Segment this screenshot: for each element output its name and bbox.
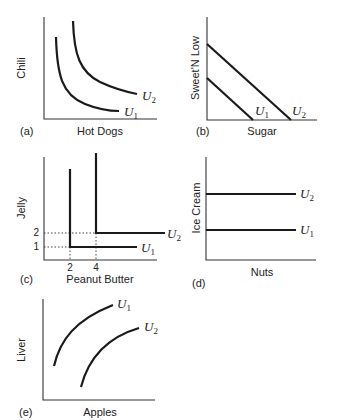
curve-a-u2 [73, 21, 137, 94]
panel-b: U1 U2 Sweet'N Low Sugar (b) [189, 17, 317, 137]
axes-d [206, 157, 316, 260]
label-b-u1: U1 [255, 103, 269, 120]
xtick-c-4: 4 [93, 262, 99, 273]
curve-c-u1 [70, 169, 137, 247]
ylabel-e: Liver [15, 338, 27, 362]
panel-d: U1 U2 Ice Cream Nuts (d) [190, 157, 316, 289]
xlabel-a: Hot Dogs [77, 125, 123, 137]
label-e-u1: U1 [117, 296, 131, 313]
label-d-u1: U1 [300, 222, 314, 239]
panel-c: U1 U2 1 2 2 4 Jelly Peanut Butter (c) [15, 153, 181, 285]
curve-b-u1 [207, 78, 253, 120]
curve-e-u2 [81, 328, 139, 387]
tag-e: (e) [19, 406, 32, 418]
ylabel-a: Chili [15, 57, 27, 78]
ytick-c-2: 2 [33, 227, 39, 238]
tag-d: (d) [192, 277, 205, 289]
label-d-u2: U2 [300, 186, 314, 203]
ylabel-c: Jelly [15, 197, 27, 220]
tag-c: (c) [20, 273, 33, 285]
label-c-u1: U1 [141, 240, 155, 257]
label-a-u2: U2 [142, 88, 156, 105]
curve-b-u2 [207, 44, 291, 120]
xlabel-c: Peanut Butter [66, 273, 134, 285]
xtick-c-2: 2 [67, 262, 73, 273]
panel-a: U1 U2 Chili Hot Dogs (a) [15, 17, 157, 137]
xlabel-d: Nuts [251, 266, 274, 278]
tag-b: (b) [196, 125, 209, 137]
tag-a: (a) [20, 125, 33, 137]
panel-e: U1 U2 Liver Apples (e) [15, 296, 158, 418]
ytick-c-1: 1 [33, 241, 39, 252]
xlabel-e: Apples [83, 406, 117, 418]
ylabel-b: Sweet'N Low [189, 36, 201, 100]
axes-a [44, 17, 157, 119]
curve-c-u2 [96, 153, 165, 233]
xlabel-b: Sugar [247, 125, 277, 137]
label-c-u2: U2 [167, 226, 181, 243]
label-a-u1: U1 [124, 104, 138, 121]
curve-e-u1 [54, 305, 113, 366]
indifference-curves-figure: U1 U2 Chili Hot Dogs (a) U1 U2 Sweet'N L… [0, 0, 337, 420]
ylabel-d: Ice Cream [190, 183, 202, 234]
label-e-u2: U2 [144, 319, 158, 336]
label-b-u2: U2 [292, 103, 306, 120]
